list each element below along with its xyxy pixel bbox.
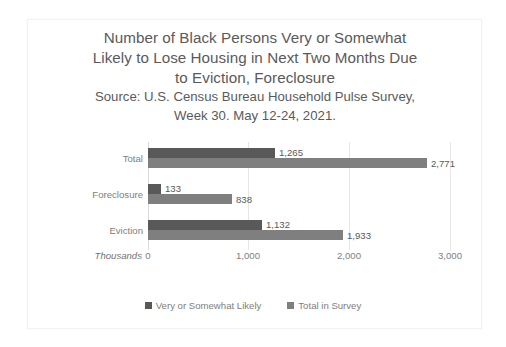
bar-eviction-likely[interactable] <box>148 220 262 230</box>
bar-label-total-likely: 1,265 <box>279 148 303 158</box>
axis-unit-label: Thousands <box>82 250 142 261</box>
chart-subtitle-line-2: Week 30. May 12-24, 2021. <box>40 107 470 126</box>
legend-item-very-or-somewhat-likely[interactable]: Very or Somewhat Likely <box>145 300 262 311</box>
bar-group-total: 1,265 2,771 <box>148 142 450 178</box>
chart-title-block: Number of Black Persons Very or Somewhat… <box>40 28 470 125</box>
plot-area: 1,265 2,771 133 838 1,132 1,933 <box>148 142 450 250</box>
bar-label-eviction-likely: 1,132 <box>266 220 290 230</box>
legend-label-likely: Very or Somewhat Likely <box>156 300 262 311</box>
chart-title-line-2: Likely to Lose Housing in Next Two Month… <box>40 48 470 68</box>
value-axis-ticks: 0 1,000 2,000 3,000 <box>148 250 450 264</box>
legend-swatch-icon-total <box>287 302 294 309</box>
bar-foreclosure-likely[interactable] <box>148 184 161 194</box>
bar-label-eviction-survey: 1,933 <box>347 231 371 241</box>
bar-label-foreclosure-survey: 838 <box>236 195 252 205</box>
legend-item-total-in-survey[interactable]: Total in Survey <box>287 300 361 311</box>
tick-label-1000: 1,000 <box>236 250 260 261</box>
bar-group-eviction: 1,132 1,933 <box>148 214 450 250</box>
tick-label-3000: 3,000 <box>438 250 462 261</box>
bar-label-total-survey: 2,771 <box>431 159 455 169</box>
legend-label-total: Total in Survey <box>298 300 361 311</box>
chart-subtitle-line-1: Source: U.S. Census Bureau Household Pul… <box>40 88 470 107</box>
tick-label-0: 0 <box>145 250 150 261</box>
bar-label-foreclosure-likely: 133 <box>165 184 181 194</box>
chart-title-line-1: Number of Black Persons Very or Somewhat <box>40 28 470 48</box>
legend-swatch-icon-likely <box>145 302 152 309</box>
chart-title-line-3: to Eviction, Foreclosure <box>40 68 470 88</box>
bar-group-foreclosure: 133 838 <box>148 178 450 214</box>
tick-label-2000: 2,000 <box>337 250 361 261</box>
chart-legend: Very or Somewhat Likely Total in Survey <box>0 300 506 311</box>
bar-total-survey[interactable] <box>148 158 427 168</box>
bar-foreclosure-survey[interactable] <box>148 194 232 204</box>
bar-eviction-survey[interactable] <box>148 230 343 240</box>
slide-canvas: Number of Black Persons Very or Somewhat… <box>0 0 506 347</box>
bar-total-likely[interactable] <box>148 148 275 158</box>
